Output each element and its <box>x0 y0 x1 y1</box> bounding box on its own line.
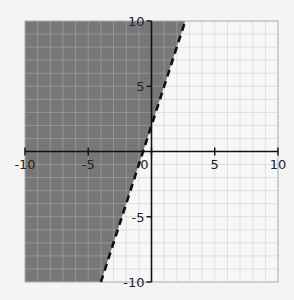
x-tick-label: -5 <box>82 157 95 172</box>
x-tick-label: 5 <box>211 157 219 172</box>
y-tick-label: -10 <box>123 275 144 290</box>
y-tick-label: 5 <box>136 79 144 94</box>
x-tick-label: 0 <box>140 157 148 172</box>
x-tick-label: -10 <box>14 157 35 172</box>
y-tick-label: -5 <box>132 210 145 225</box>
y-tick-label: 10 <box>128 14 145 29</box>
inequality-graph: -10-50510-10-5510 <box>0 0 294 300</box>
x-tick-label: 10 <box>270 157 287 172</box>
